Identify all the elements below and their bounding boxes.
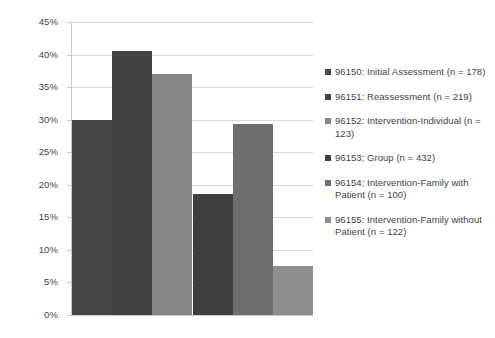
y-axis-tick-label: 35% — [39, 82, 58, 92]
y-axis-tick-mark — [67, 87, 71, 88]
y-axis-tick-mark — [67, 282, 71, 283]
legend-item: 96152: Intervention-Individual (n = 123) — [325, 115, 495, 140]
legend-item-label: 96153: Group (n = 432) — [335, 152, 435, 165]
y-axis-tick-label: 40% — [39, 50, 58, 60]
legend-item: 96151: Reassessment (n = 219) — [325, 91, 495, 104]
y-axis-tick-label: 30% — [39, 115, 58, 125]
bar-chart: 45%40%35%30%25%20%15%10%5%0% 96150: Init… — [0, 0, 495, 338]
legend-swatch-icon — [325, 180, 331, 186]
y-axis-tick-label: 15% — [39, 212, 58, 222]
bar — [112, 51, 152, 315]
legend-item: 96153: Group (n = 432) — [325, 152, 495, 165]
y-axis-tick-label: 10% — [39, 245, 58, 255]
bar — [152, 74, 192, 315]
y-axis: 45%40%35%30%25%20%15%10%5%0% — [0, 0, 66, 338]
legend-item-label: 96151: Reassessment (n = 219) — [335, 91, 472, 104]
legend-item-label: 96152: Intervention-Individual (n = 123) — [335, 115, 493, 140]
legend-swatch-icon — [325, 118, 331, 124]
bar — [273, 266, 313, 315]
legend-swatch-icon — [325, 155, 331, 161]
bar — [72, 120, 112, 315]
legend-item-label: 96154: Intervention-Family with Patient … — [335, 177, 493, 202]
legend-item-label: 96150: Initial Assessment (n = 178) — [335, 66, 485, 79]
legend-swatch-icon — [325, 94, 331, 100]
y-axis-tick-mark — [67, 22, 71, 23]
bars-group — [72, 0, 313, 338]
legend-item: 96155: Intervention-Family without Patie… — [325, 214, 495, 239]
y-axis-tick-label: 25% — [39, 147, 58, 157]
y-axis-tick-label: 0% — [44, 310, 58, 320]
y-axis-tick-mark — [67, 55, 71, 56]
legend-item-label: 96155: Intervention-Family without Patie… — [335, 214, 493, 239]
y-axis-tick-mark — [67, 185, 71, 186]
y-axis-tick-mark — [67, 120, 71, 121]
bar — [193, 194, 233, 315]
y-axis-tick-mark — [67, 315, 71, 316]
y-axis-tick-mark — [67, 217, 71, 218]
plot-area: 45%40%35%30%25%20%15%10%5%0% — [0, 0, 320, 338]
y-axis-tick-label: 5% — [44, 277, 58, 287]
legend: 96150: Initial Assessment (n = 178)96151… — [325, 66, 495, 251]
legend-item: 96150: Initial Assessment (n = 178) — [325, 66, 495, 79]
y-axis-tick-label: 45% — [39, 17, 58, 27]
y-axis-tick-mark — [67, 250, 71, 251]
y-axis-tick-mark — [67, 152, 71, 153]
legend-item: 96154: Intervention-Family with Patient … — [325, 177, 495, 202]
y-axis-tick-label: 20% — [39, 180, 58, 190]
bar — [233, 124, 273, 315]
legend-swatch-icon — [325, 217, 331, 223]
legend-swatch-icon — [325, 69, 331, 75]
